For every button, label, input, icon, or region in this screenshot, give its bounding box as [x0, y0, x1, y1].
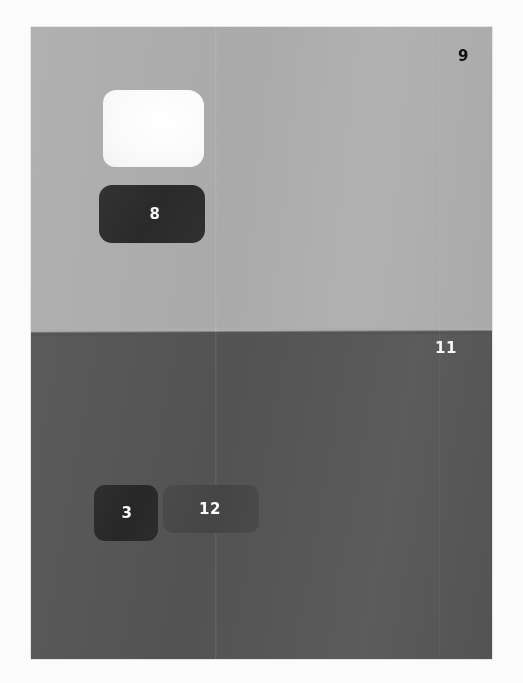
label-nine: 9: [458, 49, 469, 64]
patch-twelve-label: 12: [199, 502, 221, 517]
white-patch: [103, 90, 204, 167]
patch-three: 3: [94, 485, 158, 541]
patch-three-label: 3: [122, 506, 133, 521]
artwork-plate: 8 3 12 9 11: [31, 27, 492, 659]
patch-eight: 8: [99, 185, 205, 243]
upper-color-field: [31, 27, 492, 333]
patch-twelve: 12: [163, 485, 259, 533]
patch-eight-label: 8: [150, 207, 161, 222]
scan-page-background: 8 3 12 9 11: [0, 0, 523, 683]
label-eleven: 11: [435, 341, 457, 356]
